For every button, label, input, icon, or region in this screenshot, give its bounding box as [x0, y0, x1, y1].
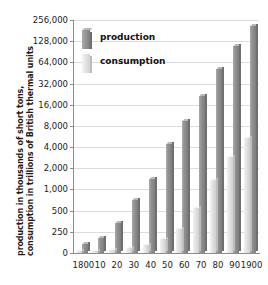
- bar-consumption: [126, 248, 132, 253]
- x-axis-tick-label: 50: [162, 260, 173, 270]
- bar-group: [141, 20, 158, 253]
- y-axis-tick-label: 256,000: [33, 15, 68, 25]
- bar-group: [192, 20, 209, 253]
- x-axis-tick-label: 40: [145, 260, 156, 270]
- x-axis-tick-label: 90: [229, 260, 240, 270]
- y-axis-title: production in thousands of short tons, c…: [0, 0, 34, 285]
- chart-figure: production in thousands of short tons, c…: [0, 0, 268, 285]
- y-axis-tick-label: 1,000: [44, 184, 68, 194]
- x-axis-tick-label: 1900: [241, 260, 263, 270]
- y-axis-tick-label: 64,000: [38, 57, 68, 67]
- y-axis-tick-label: 250: [52, 227, 68, 237]
- y-axis-tick-label: 4,000: [44, 142, 68, 152]
- bar-group: [242, 20, 259, 253]
- bar-consumption: [227, 157, 233, 253]
- y-axis-tick-label: 0: [63, 248, 68, 258]
- bar-group: [91, 20, 108, 253]
- bar-consumption: [160, 239, 166, 253]
- x-axis-tick-label: 1800: [73, 260, 95, 270]
- y-axis-tick-label: 8,000: [44, 121, 68, 131]
- bar-consumption: [244, 138, 250, 253]
- x-axis-tick-label: 60: [179, 260, 190, 270]
- bar-production: [149, 179, 155, 253]
- legend-label-production: production: [100, 32, 155, 42]
- bar-consumption: [92, 251, 98, 253]
- bar-consumption: [143, 245, 149, 253]
- bar-consumption: [176, 229, 182, 253]
- y-axis-tick-label: 2,000: [44, 163, 68, 173]
- y-axis-tick-label: 16,000: [38, 100, 68, 110]
- bar-group: [209, 20, 226, 253]
- bar-consumption: [210, 180, 216, 253]
- bar-consumption: [193, 208, 199, 253]
- bar-group: [124, 20, 141, 253]
- legend-label-consumption: consumption: [100, 56, 166, 66]
- bar-consumption: [76, 251, 82, 253]
- x-axis-line: [74, 253, 260, 254]
- bar-consumption: [109, 250, 115, 253]
- legend-swatch-consumption-icon: [82, 52, 90, 73]
- bar-group: [158, 20, 175, 253]
- y-axis-tick-label: 128,000: [33, 36, 68, 46]
- x-axis-tick-label: 80: [213, 260, 224, 270]
- plot-area: 256,000128,00064,00032,00016,0008,0004,0…: [74, 20, 259, 253]
- legend-swatch-production-icon: [82, 28, 90, 49]
- bar-group: [108, 20, 125, 253]
- x-axis-tick-label: 70: [196, 260, 207, 270]
- x-axis-tick-label: 30: [128, 260, 139, 270]
- bar-group: [175, 20, 192, 253]
- y-axis-title-line-2: consumption in trillions of British ther…: [26, 46, 35, 256]
- y-axis-tick-label: 32,000: [38, 79, 68, 89]
- bar-group: [225, 20, 242, 253]
- x-axis-tick-label: 20: [112, 260, 123, 270]
- x-axis-tick-label: 10: [95, 260, 106, 270]
- y-axis-tick-label: 500: [52, 206, 68, 216]
- y-axis-title-line-1: production in thousands of short tons,: [16, 86, 25, 256]
